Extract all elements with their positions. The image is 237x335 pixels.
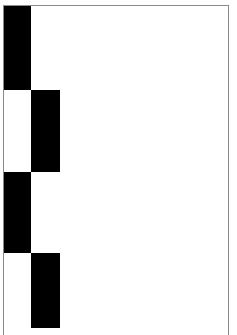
- black-block-1: [4, 6, 31, 90]
- black-block-4: [31, 253, 60, 328]
- black-block-3: [4, 172, 31, 253]
- black-block-2: [31, 90, 60, 172]
